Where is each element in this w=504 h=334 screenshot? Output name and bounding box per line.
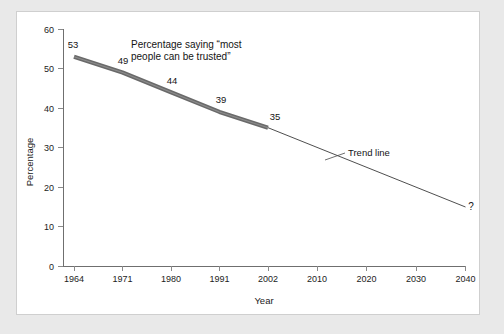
chart-panel: 0 10 20 30 40 50 60 Percentage: [16, 11, 480, 315]
y-tick-label-40: 40: [44, 104, 54, 114]
x-tick-label-1964: 1964: [64, 274, 84, 284]
y-axis-ticks: [58, 29, 63, 266]
y-axis-tick-labels: 0 10 20 30 40 50 60: [44, 25, 54, 272]
unknown-future-marker: ?: [468, 201, 474, 212]
x-tick-label-2030: 2030: [406, 274, 426, 284]
data-label-2002: 35: [270, 111, 281, 122]
x-tick-label-2040: 2040: [455, 274, 475, 284]
trend-line-callout-label: Trend line: [348, 147, 390, 158]
y-tick-label-10: 10: [44, 222, 54, 232]
trend-line-callout: Trend line: [325, 147, 390, 160]
y-tick-label-60: 60: [44, 25, 54, 35]
x-tick-label-2020: 2020: [356, 274, 376, 284]
figure-root: 0 10 20 30 40 50 60 Percentage: [0, 0, 504, 334]
x-tick-label-1991: 1991: [209, 274, 229, 284]
series-caption-line-1: Percentage saying “most: [131, 39, 242, 50]
data-label-1980: 44: [167, 75, 178, 86]
y-tick-label-0: 0: [49, 262, 54, 272]
x-tick-label-1980: 1980: [161, 274, 181, 284]
chart-plot-area: 0 10 20 30 40 50 60 Percentage: [17, 12, 481, 316]
y-axis-title: Percentage: [24, 138, 35, 187]
x-axis-ticks: [74, 266, 466, 271]
x-tick-label-1971: 1971: [112, 274, 132, 284]
y-tick-label-30: 30: [44, 143, 54, 153]
x-axis-tick-labels: 1964 1971 1980 1991 2002 2010 2020 2030 …: [64, 274, 476, 284]
data-label-1971: 49: [118, 55, 129, 66]
y-tick-label-50: 50: [44, 64, 54, 74]
x-axis-title: Year: [254, 295, 273, 306]
data-label-1991: 39: [216, 94, 227, 105]
x-tick-label-2010: 2010: [307, 274, 327, 284]
y-tick-label-20: 20: [44, 183, 54, 193]
series-caption-annotation: Percentage saying “most people can be tr…: [131, 39, 242, 62]
series-caption-line-2: people can be trusted”: [131, 51, 231, 62]
data-label-1964: 53: [68, 39, 79, 50]
trend-line-projection: [268, 128, 466, 207]
x-tick-label-2002: 2002: [258, 274, 278, 284]
trend-line-callout-leader: [325, 153, 345, 160]
